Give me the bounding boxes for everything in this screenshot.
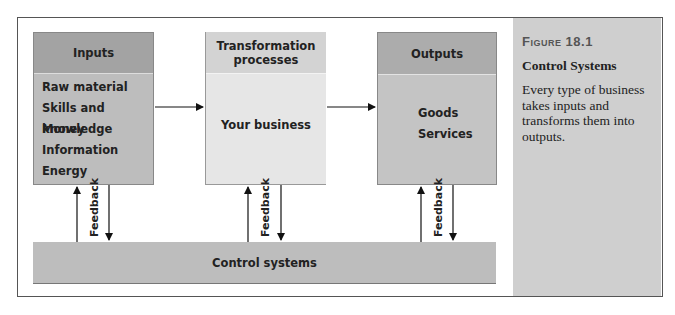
feedback-label-inputs: Feedback [88,178,101,237]
feedback-label-transformation: Feedback [259,178,272,237]
figure-description: Every type of business takes inputs and … [522,82,657,144]
figure-title: Control Systems [522,58,617,74]
figure-number: Figure 18.1 [522,34,593,49]
feedback-label-outputs: Feedback [432,178,445,237]
